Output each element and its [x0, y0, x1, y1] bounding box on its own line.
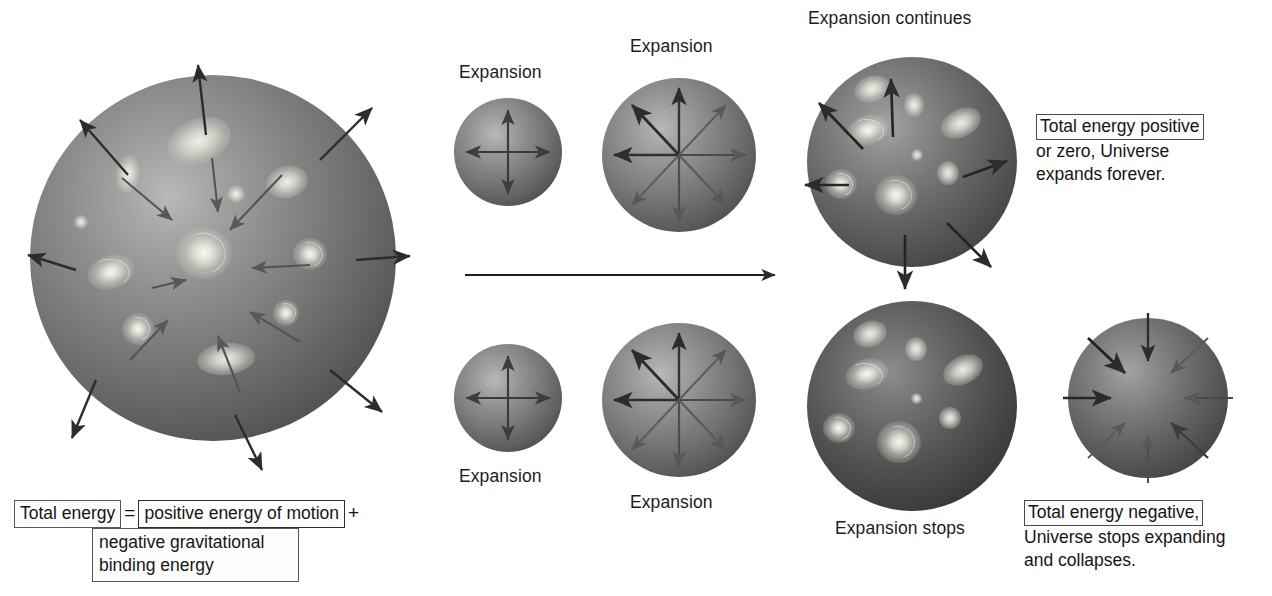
- callout-closed-line1: Total energy negative,: [1024, 500, 1203, 526]
- galaxy-elliptical: [851, 71, 893, 107]
- closed-stage-1-sphere: [454, 344, 562, 452]
- main-sphere-contents: [30, 75, 396, 441]
- closed-stage-3-sphere: [807, 301, 1017, 511]
- galaxy-dwarf: [939, 407, 961, 429]
- open-stage-2-sphere: [602, 78, 756, 232]
- equation-indent-spacer: [14, 528, 92, 582]
- label-open-stage-3: Expansion continues: [808, 8, 971, 29]
- galaxy-spiral: [293, 238, 327, 270]
- galaxy-dwarf: [937, 161, 959, 185]
- galaxy-dwarf: [74, 215, 88, 229]
- galaxy-spiral: [842, 354, 893, 395]
- callout-open-universe: Total energy positive or zero, Universe …: [1036, 114, 1268, 186]
- galaxy-elliptical: [160, 108, 238, 174]
- callout-open-line3: expands forever.: [1036, 164, 1165, 184]
- equation-term-kinetic-energy: positive energy of motion: [138, 500, 345, 528]
- closed-stage-2-sphere: [602, 323, 756, 477]
- galaxy-spiral: [875, 175, 917, 215]
- galaxy-spiral: [877, 421, 921, 463]
- time-direction-arrow: [455, 256, 795, 296]
- label-closed-stage-1: Expansion: [459, 466, 542, 487]
- galaxy-elliptical: [938, 348, 988, 392]
- main-universe-sphere: [30, 75, 396, 441]
- equation-term-total-energy: Total energy: [14, 500, 121, 528]
- label-closed-stage-3: Expansion stops: [835, 518, 965, 539]
- callout-closed-line2: Universe stops expanding: [1024, 527, 1225, 547]
- open-stage-1-sphere: [454, 98, 562, 206]
- total-energy-equation: Total energy = positive energy of motion…: [14, 500, 362, 582]
- equation-equals-sign: =: [121, 500, 138, 524]
- equation-second-row: negative gravitational binding energy: [14, 528, 362, 582]
- equation-binding-line1: negative gravitational: [99, 532, 264, 552]
- label-closed-stage-2: Expansion: [630, 492, 713, 513]
- label-open-stage-1: Expansion: [459, 62, 542, 83]
- universe-fate-diagram: Expansion Expansion Expansion continues: [0, 0, 1272, 596]
- label-open-stage-2: Expansion: [630, 36, 713, 57]
- galaxy-spiral: [823, 413, 855, 443]
- galaxy-spiral: [825, 169, 857, 199]
- galaxy-spiral: [83, 248, 139, 295]
- open-stage-3-contents: [807, 57, 1017, 267]
- equation-term-binding-energy: negative gravitational binding energy: [92, 528, 299, 582]
- galaxy-spiral: [273, 300, 299, 326]
- galaxy-elliptical: [113, 154, 142, 195]
- galaxy-dwarf: [911, 149, 923, 161]
- galaxy-spiral: [176, 227, 232, 279]
- galaxy-elliptical: [850, 316, 890, 351]
- galaxy-spiral: [122, 313, 154, 345]
- callout-closed-line3: and collapses.: [1024, 550, 1136, 570]
- galaxy-dwarf: [911, 393, 922, 404]
- open-stage-3-sphere: [807, 57, 1017, 267]
- galaxy-dwarf: [905, 337, 927, 361]
- galaxy-elliptical: [936, 101, 986, 145]
- closed-stage-3-contents: [807, 301, 1017, 511]
- equation-first-row: Total energy = positive energy of motion…: [14, 500, 362, 528]
- galaxy-dwarf: [904, 93, 924, 117]
- callout-open-line2: or zero, Universe: [1036, 141, 1169, 161]
- callout-closed-universe: Total energy negative, Universe stops ex…: [1024, 500, 1268, 572]
- equation-binding-line2: binding energy: [99, 555, 214, 575]
- callout-open-line1: Total energy positive: [1036, 114, 1204, 140]
- closed-stage-4-sphere: [1068, 318, 1228, 478]
- galaxy-spiral: [844, 110, 893, 150]
- galaxy-elliptical: [263, 161, 311, 202]
- galaxy-dwarf: [227, 185, 245, 203]
- galaxy-elliptical: [195, 340, 256, 378]
- equation-plus-sign: +: [345, 500, 362, 524]
